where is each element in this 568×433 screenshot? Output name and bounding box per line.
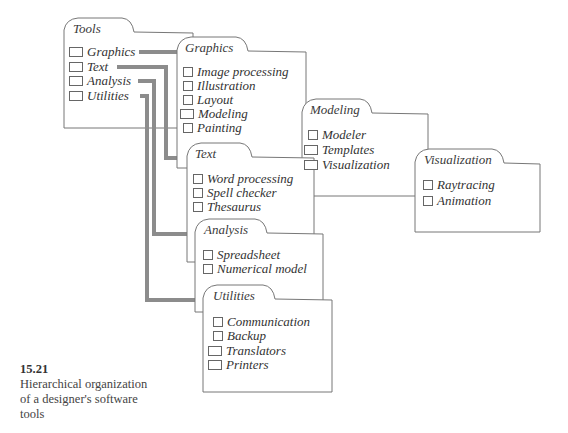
checkbox[interactable]	[304, 145, 318, 155]
modeling-item-modeler[interactable]: Modeler	[308, 127, 366, 143]
folder-title-tools: Tools	[73, 21, 101, 37]
checkbox[interactable]	[423, 196, 433, 206]
caption-line: Hierarchical organization	[20, 377, 147, 392]
checkbox[interactable]	[69, 62, 83, 72]
folder-title-graphics: Graphics	[185, 40, 233, 56]
checkbox[interactable]	[69, 47, 83, 57]
checkbox[interactable]	[183, 123, 193, 133]
checkbox[interactable]	[180, 109, 194, 119]
checkbox[interactable]	[203, 250, 213, 260]
checkbox[interactable]	[423, 180, 433, 190]
checkbox[interactable]	[193, 174, 203, 184]
visualization-item-raytracing[interactable]: Raytracing	[423, 177, 495, 193]
folder-title-analysis: Analysis	[204, 222, 248, 238]
folder-title-text: Text	[195, 146, 216, 162]
caption-line: tools	[20, 407, 147, 422]
figure-caption: 15.21 Hierarchical organization of a des…	[20, 362, 147, 422]
checkbox[interactable]	[308, 130, 318, 140]
checkbox[interactable]	[183, 67, 193, 77]
graphics-item-painting[interactable]: Painting	[183, 120, 242, 136]
checkbox[interactable]	[69, 76, 83, 86]
checkbox[interactable]	[208, 360, 222, 370]
modeling-item-templates[interactable]: Templates	[304, 142, 374, 158]
checkbox[interactable]	[183, 95, 193, 105]
visualization-item-animation[interactable]: Animation	[423, 193, 491, 209]
caption-line: of a designer's software	[20, 392, 147, 407]
tools-item-utilities[interactable]: Utilities	[69, 88, 129, 104]
checkbox[interactable]	[208, 346, 222, 356]
utilities-item-printers[interactable]: Printers	[208, 357, 269, 373]
folder-title-utilities: Utilities	[213, 288, 255, 304]
text-item-thesaurus[interactable]: Thesaurus	[193, 199, 261, 215]
checkbox[interactable]	[193, 202, 203, 212]
checkbox[interactable]	[193, 188, 203, 198]
checkbox[interactable]	[213, 317, 223, 327]
modeling-item-visualization[interactable]: Visualization	[304, 157, 390, 173]
utilities-item-backup[interactable]: Backup	[213, 328, 266, 344]
tools-item-graphics[interactable]: Graphics	[69, 44, 135, 60]
figure-number: 15.21	[20, 362, 147, 377]
analysis-item-numerical-model[interactable]: Numerical model	[203, 261, 307, 277]
folder-title-visualization: Visualization	[424, 152, 492, 168]
checkbox[interactable]	[304, 160, 318, 170]
checkbox[interactable]	[203, 264, 213, 274]
folder-title-modeling: Modeling	[310, 102, 360, 118]
checkbox[interactable]	[183, 81, 193, 91]
tools-item-analysis[interactable]: Analysis	[69, 73, 131, 89]
checkbox[interactable]	[69, 91, 83, 101]
checkbox[interactable]	[213, 331, 223, 341]
